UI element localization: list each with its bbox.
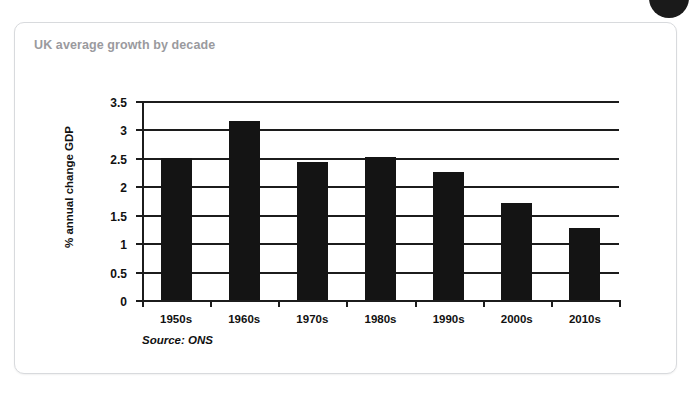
x-axis-tick — [483, 300, 485, 307]
bar-1950s — [161, 158, 192, 300]
x-axis-label-1990s: 1990s — [433, 313, 465, 325]
y-axis-tick-label: 0 — [120, 295, 127, 309]
y-axis-tick-label: 1 — [120, 238, 127, 252]
x-axis-tick — [619, 300, 621, 307]
circle-badge — [649, 0, 689, 18]
y-axis-tick: 1 — [136, 243, 143, 245]
x-axis-tick — [142, 300, 144, 307]
y-axis-tick-label: 3.5 — [110, 96, 127, 110]
y-axis-tick-label: 2.5 — [110, 153, 127, 167]
x-axis-label-1970s: 1970s — [296, 313, 328, 325]
y-axis-tick-label: 2 — [120, 181, 127, 195]
x-axis-tick — [346, 300, 348, 307]
bar-2000s — [501, 203, 532, 300]
y-axis-tick: 2 — [136, 186, 143, 188]
bar-1960s — [229, 121, 260, 300]
bar-2010s — [569, 228, 600, 300]
x-axis-tick — [210, 300, 212, 307]
x-axis-tick — [415, 300, 417, 307]
y-axis-tick-label: 3 — [120, 124, 127, 138]
bar-chart-figure: % annual change GDP 00.511.522.533.51950… — [15, 81, 678, 371]
page-title: UK average growth by decade — [34, 38, 215, 52]
y-axis-tick: 2.5 — [136, 158, 143, 160]
x-axis-label-1960s: 1960s — [228, 313, 260, 325]
bar-1980s — [365, 157, 396, 300]
y-axis-tick: 3.5 — [136, 101, 143, 103]
y-axis-tick: 1.5 — [136, 215, 143, 217]
x-axis-tick — [551, 300, 553, 307]
y-axis-label: % annual change GDP — [63, 87, 75, 287]
x-axis-tick — [278, 300, 280, 307]
x-axis-label-1950s: 1950s — [160, 313, 192, 325]
y-axis-tick: 0.5 — [136, 272, 143, 274]
bar-1970s — [297, 162, 328, 300]
x-axis-label-2010s: 2010s — [569, 313, 601, 325]
bar-1990s — [433, 172, 464, 300]
x-axis-line — [142, 300, 619, 302]
gridline — [142, 101, 619, 103]
source-note: Source: ONS — [142, 334, 213, 346]
y-axis-tick: 3 — [136, 129, 143, 131]
x-axis-label-2000s: 2000s — [501, 313, 533, 325]
x-axis-label-1980s: 1980s — [365, 313, 397, 325]
y-axis-tick-label: 0.5 — [110, 267, 127, 281]
plot-area: 00.511.522.533.51950s1960s1970s1980s1990… — [142, 101, 619, 300]
gridline — [142, 129, 619, 131]
chart-card: UK average growth by decade % annual cha… — [14, 22, 677, 374]
y-axis-tick-label: 1.5 — [110, 210, 127, 224]
